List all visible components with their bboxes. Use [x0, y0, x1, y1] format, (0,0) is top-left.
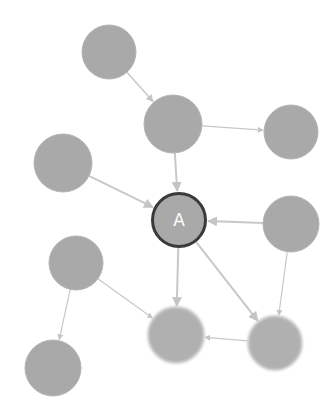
- node-n9[interactable]: [25, 340, 81, 396]
- edge-n4-to-A: [89, 176, 153, 207]
- edge-n5-to-A: [208, 221, 263, 223]
- node-n2[interactable]: [144, 95, 202, 153]
- node-A[interactable]: A: [153, 194, 206, 247]
- node-circle: [144, 95, 202, 153]
- edge-n8-to-n7: [205, 337, 248, 340]
- node-circle: [82, 25, 136, 79]
- node-n5[interactable]: [263, 196, 319, 252]
- node-circle: [263, 196, 319, 252]
- edge-A-to-n7: [177, 248, 179, 306]
- edge-n6-to-n9: [59, 289, 70, 339]
- edge-n1-to-n2: [127, 72, 153, 101]
- node-label: A: [173, 210, 185, 230]
- node-circle: [248, 316, 302, 370]
- edge-n6-to-n7: [98, 279, 153, 318]
- node-circle: [148, 307, 204, 363]
- node-n4[interactable]: [34, 134, 92, 192]
- node-layer: A: [25, 25, 319, 396]
- node-circle: [49, 236, 103, 290]
- node-n6[interactable]: [49, 236, 103, 290]
- node-circle: [34, 134, 92, 192]
- node-circle: [25, 340, 81, 396]
- node-n1[interactable]: [82, 25, 136, 79]
- node-n7[interactable]: [148, 307, 204, 363]
- node-n8[interactable]: [248, 316, 302, 370]
- node-n3[interactable]: [264, 105, 318, 159]
- directed-graph: A: [0, 0, 332, 408]
- edge-n2-to-n3: [202, 126, 263, 130]
- node-circle: [264, 105, 318, 159]
- edge-n2-to-A: [175, 153, 177, 191]
- edge-A-to-n8: [196, 242, 258, 321]
- edge-n5-to-n8: [279, 252, 288, 315]
